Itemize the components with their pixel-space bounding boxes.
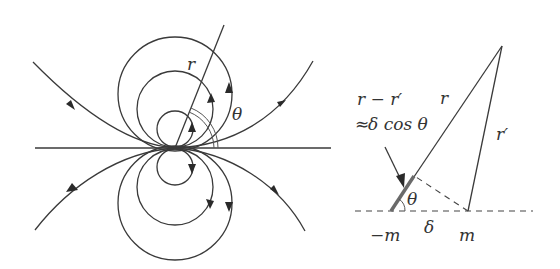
r-prime-label: r′ [496, 124, 508, 144]
arrow-lower-small [188, 164, 196, 174]
right-panel-dipole-geometry: r − r′ ≈ δ cos θ r r′ θ −m δ m [355, 46, 533, 245]
field-loop-lower-small [157, 149, 193, 185]
radius-label: r [187, 54, 196, 74]
angle-label: θ [232, 104, 242, 124]
field-loop-lower-large [118, 146, 232, 260]
arrow-outer-lower-right [270, 185, 279, 195]
negative-charge-label: −m [370, 225, 400, 245]
path-difference-label: r − r′ [357, 89, 402, 109]
arrow-outer-lower-left [66, 183, 78, 192]
approx-expression: δ cos θ [368, 114, 428, 134]
angle-arc [399, 199, 405, 211]
arrow-upper-small [188, 122, 196, 132]
dipole-figure: r θ r − r′ ≈ δ cos θ r r′ θ −m δ m [0, 0, 560, 269]
pointer-arrow-line [385, 147, 401, 180]
arrow-outer-upper-left [66, 100, 75, 110]
field-loop-upper-large [118, 37, 232, 151]
field-line-upper-left [33, 62, 175, 148]
field-line-upper-right [175, 61, 313, 148]
theta-label: θ [407, 189, 417, 209]
pointer-arrowhead [396, 173, 405, 188]
radius-line [175, 25, 224, 148]
field-line-lower-right [175, 148, 305, 231]
separation-label: δ [424, 217, 434, 237]
perpendicular-dashed [416, 177, 468, 211]
positive-charge-label: m [459, 225, 475, 245]
left-panel-dipole-field: r θ [33, 25, 331, 260]
r-label: r [440, 88, 449, 108]
field-loop-lower-medium [137, 149, 213, 225]
arrow-upper-medium [207, 93, 215, 103]
field-line-lower-left [35, 148, 175, 230]
